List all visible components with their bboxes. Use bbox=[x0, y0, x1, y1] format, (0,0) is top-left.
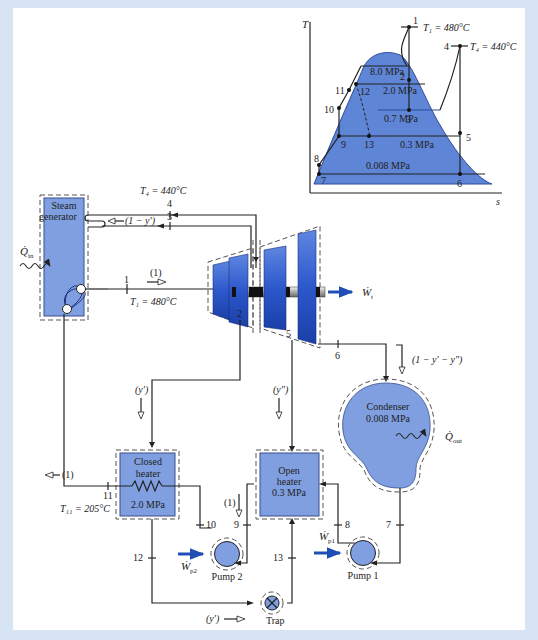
qin-label: Q̇ bbox=[20, 245, 28, 257]
pump-1-body bbox=[351, 541, 376, 566]
condenser[interactable]: Condenser 0.008 MPa Q̇ out bbox=[338, 379, 462, 492]
ts-axis-label-T: T bbox=[302, 18, 309, 30]
state-1-label: 1 bbox=[124, 274, 129, 285]
pump-1[interactable]: Pump 1 Ẇ p1 bbox=[314, 530, 379, 581]
ts-label-11: 11 bbox=[335, 85, 345, 96]
main-flow-fraction-label: (1) bbox=[150, 267, 162, 279]
ts-diagram: T s 1 2 3 4 5 6 7 8 9 bbox=[302, 15, 517, 207]
pump-2[interactable]: Pump 2 Ẇ p2 bbox=[178, 538, 243, 582]
qout-label: Q̇ bbox=[445, 430, 453, 442]
state-2-label: 2 bbox=[237, 308, 242, 319]
condenser-label-1: Condenser bbox=[367, 401, 410, 412]
extraction-2: 2 (y′) bbox=[135, 308, 242, 448]
pipe-11: 11 (1) T₁₁ = 205°C bbox=[45, 314, 132, 514]
qin-subscript: in bbox=[28, 252, 34, 260]
extraction-5: 5 (y″) bbox=[273, 328, 295, 452]
state-3-label: 3 bbox=[167, 211, 172, 222]
ts-label-10: 10 bbox=[324, 104, 334, 115]
reheat-line bbox=[440, 46, 460, 110]
state-8-label: 8 bbox=[345, 519, 350, 530]
reheat-fraction-label: (1 − y′) bbox=[125, 215, 156, 227]
turbine-stage-4 bbox=[298, 230, 316, 344]
ts-label-1: 1 bbox=[413, 15, 418, 26]
qout-subscript: out bbox=[453, 437, 462, 445]
state-7-label: 7 bbox=[386, 519, 391, 530]
ts-pressure-8mpa: 8.0 MPa bbox=[370, 66, 404, 77]
regenerative-rankine-diagram: T s 1 2 3 4 5 6 7 8 9 bbox=[0, 0, 538, 640]
open-heater-label-3: 0.3 MPa bbox=[272, 487, 306, 498]
reheater-coil-icon bbox=[85, 215, 105, 227]
state-11-label: 11 bbox=[103, 490, 113, 501]
ts-pressure-0p008mpa: 0.008 MPa bbox=[366, 160, 410, 171]
closed-heater[interactable]: Closed heater 2.0 MPa bbox=[116, 450, 179, 519]
closed-heater-label-1: Closed bbox=[134, 456, 162, 467]
ts-pressure-0p7mpa: 0.7 MPa bbox=[384, 113, 418, 124]
pipe-6: 6 (1 − y′ − y″) bbox=[318, 340, 463, 382]
state-12-label: 12 bbox=[133, 552, 143, 563]
ts-pressure-2mpa: 2.0 MPa bbox=[383, 85, 417, 96]
trap-label: Trap bbox=[266, 615, 285, 626]
pump-1-work-subscript: p1 bbox=[328, 537, 336, 545]
pump-2-label: Pump 2 bbox=[212, 571, 243, 582]
open-heater-label-2: heater bbox=[277, 476, 302, 487]
condenser-fraction-label: (1 − y′ − y″) bbox=[412, 354, 463, 366]
ts-t1-label: T₁ = 480°C bbox=[423, 22, 470, 33]
open-heater[interactable]: Open heater 0.3 MPa bbox=[256, 450, 323, 519]
t11-annotation: T₁₁ = 205°C bbox=[60, 503, 110, 514]
state-4-label: 4 bbox=[167, 198, 172, 209]
trap-fraction-label: (y′) bbox=[206, 613, 220, 625]
extraction-y1-label: (y′) bbox=[135, 384, 149, 396]
pipe-13: 13 bbox=[273, 518, 296, 603]
ts-label-8: 8 bbox=[314, 153, 319, 164]
condenser-label-2: 0.008 MPa bbox=[366, 413, 410, 424]
ts-label-13: 13 bbox=[364, 139, 374, 150]
state-13-label: 13 bbox=[273, 552, 283, 563]
ts-label-7: 7 bbox=[321, 175, 326, 186]
trap[interactable]: Trap (y′) bbox=[206, 592, 285, 626]
steam-generator-label-1: Steam bbox=[52, 200, 77, 211]
t4-annotation: T₄ = 440°C bbox=[140, 185, 187, 196]
t1-annotation: T₁ = 480°C bbox=[130, 296, 177, 307]
closed-heater-label-2: heater bbox=[136, 468, 161, 479]
closed-heater-label-3: 2.0 MPa bbox=[131, 499, 165, 510]
turbine-stage-3 bbox=[264, 246, 286, 330]
ts-label-4: 4 bbox=[444, 41, 449, 52]
ts-label-5: 5 bbox=[466, 132, 471, 143]
state-6-label: 6 bbox=[335, 350, 340, 361]
ts-pressure-0p3mpa: 0.3 MPa bbox=[400, 139, 434, 150]
pump-1-label: Pump 1 bbox=[348, 570, 379, 581]
steam-generator[interactable]: Steam generator Q̇ in bbox=[20, 195, 105, 320]
state-9-label: 9 bbox=[234, 519, 239, 530]
ts-axis-label-s: s bbox=[496, 196, 500, 207]
extraction-y2-label: (y″) bbox=[273, 384, 289, 396]
ts-t4-label: T₄ = 440°C bbox=[470, 41, 517, 52]
ts-label-6: 6 bbox=[457, 178, 462, 189]
steam-generator-label-2: generator bbox=[39, 211, 77, 222]
turbine-work-subscript: t bbox=[371, 293, 373, 301]
state-10-label: 10 bbox=[206, 519, 216, 530]
state-5-label: 5 bbox=[286, 328, 291, 339]
pump-2-flow-label: (1) bbox=[224, 497, 236, 509]
pump-2-work-subscript: p2 bbox=[190, 567, 198, 575]
condenser-body bbox=[343, 383, 431, 488]
closed-heater-flow-label: (1) bbox=[62, 469, 74, 481]
ts-label-12: 12 bbox=[360, 86, 370, 97]
open-heater-label-1: Open bbox=[278, 465, 300, 476]
ts-label-9: 9 bbox=[341, 139, 346, 150]
